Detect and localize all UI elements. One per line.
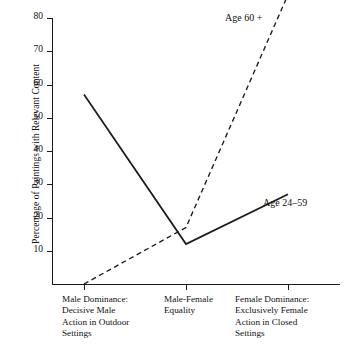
y-axis-tick-label: 30: [34, 177, 44, 187]
x-axis-category-line: Equality: [164, 305, 213, 316]
series-label-age-60-plus: Age 60 +: [225, 12, 262, 23]
x-axis-category-line: Settings: [62, 328, 129, 339]
y-axis-tick-label: 20: [34, 211, 44, 221]
x-axis-category-label-0: Male Dominance:Decisive MaleAction in Ou…: [62, 294, 129, 340]
line-chart: Percentage of Paintings with Relevant Co…: [0, 0, 344, 356]
series-lines: [52, 18, 340, 285]
series-line-age-60-plus: [84, 0, 288, 284]
y-axis-tick-label: 70: [34, 44, 44, 54]
y-axis-tick-label: 50: [34, 111, 44, 121]
y-axis-tick-label: 60: [34, 78, 44, 88]
x-axis-category-line: Male-Female: [164, 294, 213, 305]
x-axis-category-line: Exclusively Female: [235, 305, 309, 316]
x-axis-category-line: Settings: [235, 328, 309, 339]
x-axis-category-line: Male Dominance:: [62, 294, 129, 305]
series-label-age-24-59: Age 24–59: [263, 197, 307, 208]
x-axis-category-label-2: Female Dominance:Exclusively FemaleActio…: [235, 294, 309, 340]
x-axis-category-line: Action in Closed: [235, 317, 309, 328]
x-axis-category-line: Female Dominance:: [235, 294, 309, 305]
x-axis-category-line: Decisive Male: [62, 305, 129, 316]
y-axis-tick-label: 40: [34, 144, 44, 154]
y-axis-tick-label: 10: [34, 244, 44, 254]
y-axis-tick-label: 80: [34, 11, 44, 21]
x-axis-category-line: Action in Outdoor: [62, 317, 129, 328]
plot-area: 8070605040302010: [52, 18, 340, 284]
series-line-age-24-59: [84, 94, 288, 244]
x-axis-category-label-1: Male-FemaleEquality: [164, 294, 213, 317]
